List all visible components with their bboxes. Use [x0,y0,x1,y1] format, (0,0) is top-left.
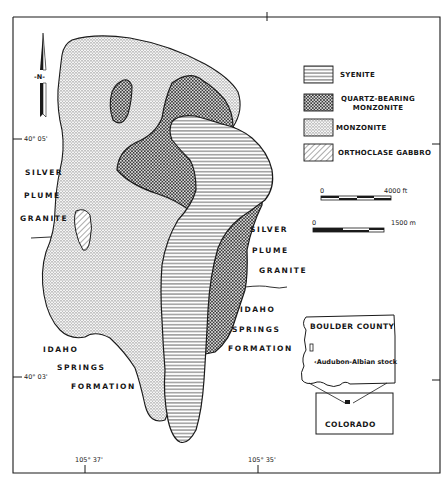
formation-label-idaho-east-2: SPRINGS [232,325,281,334]
inset-county-label: BOULDER COUNTY [310,322,395,331]
legend-label-orthoclase-gabbro: ORTHOCLASE GABBRO [338,149,431,158]
scale-feet-start: 0 [320,187,324,195]
formation-label-silver-east-2: PLUME [252,246,289,255]
legend-label-monzonite: MONZONITE [336,124,387,133]
contact-line-east [245,286,287,288]
legend-label-line2: MONZONITE [336,104,420,113]
legend-label-line1: QUARTZ-BEARING [336,95,420,104]
longitude-east-label: 105° 35' [248,456,276,464]
scale-meters-start: 0 [312,219,316,227]
scale-bar-meters [313,228,384,232]
legend-swatch-monzonite [304,119,333,136]
latitude-south-label: 40° 03' [24,373,48,381]
formation-label-silver-west-2: PLUME [24,191,61,200]
legend-swatch-quartz-bearing-monzonite [304,94,333,111]
inset-state-label: COLORADO [325,420,376,429]
legend-label-syenite: SYENITE [340,71,375,80]
legend-swatch-orthoclase-gabbro [304,144,333,161]
formation-label-idaho-west-3: FORMATION [71,382,136,391]
formation-label-idaho-west-2: SPRINGS [57,363,106,372]
formation-label-silver-west-3: GRANITE [20,214,68,223]
inset-stock-label: ‹Audubon-Albian stock [314,358,397,366]
boulder-county-marker [345,400,350,404]
legend [304,66,333,161]
north-label: -N- [34,73,45,81]
legend-label-quartz-bearing-monzonite: QUARTZ-BEARING MONZONITE [336,95,420,113]
legend-swatch-syenite [304,66,333,83]
formation-label-silver-west-1: SILVER [25,168,63,177]
formation-label-idaho-west-1: IDAHO [43,345,78,354]
latitude-north-label: 40° 05' [24,135,48,143]
formation-label-idaho-east-3: FORMATION [228,344,293,353]
scale-bar-feet [321,196,391,200]
geologic-map [0,0,447,485]
formation-label-idaho-east-1: IDAHO [240,305,275,314]
formation-label-silver-east-1: SILVER [250,225,288,234]
inset-stock-text: Audubon-Albian stock [317,358,397,366]
scale-meters-end: 1500 m [391,219,416,227]
formation-label-silver-east-3: GRANITE [259,266,307,275]
longitude-west-label: 105° 37' [75,456,103,464]
scale-feet-end: 4000 ft [384,187,407,195]
